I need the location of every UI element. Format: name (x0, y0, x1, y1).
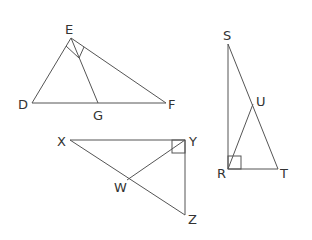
triangle-def: E D F G (18, 22, 175, 123)
label-u: U (256, 94, 266, 109)
segment-ef (71, 38, 166, 103)
label-z: Z (188, 212, 197, 227)
label-g: G (93, 108, 103, 123)
label-y: Y (188, 134, 197, 149)
label-t: T (279, 166, 288, 181)
geometry-diagram: E D F G X Y Z W S U R T (0, 0, 312, 240)
segment-de (32, 38, 71, 103)
right-angle-marker-r (228, 156, 241, 169)
label-f: F (168, 97, 175, 112)
label-d: D (18, 97, 28, 112)
label-e: E (65, 22, 73, 37)
label-r: R (217, 166, 226, 181)
label-s: S (223, 28, 231, 43)
segment-yw (127, 140, 185, 180)
triangle-xyz: X Y Z W (57, 134, 197, 227)
label-w: W (114, 180, 127, 195)
label-x: X (57, 134, 66, 149)
segment-xz (70, 140, 185, 215)
triangle-srt: S U R T (217, 28, 288, 181)
